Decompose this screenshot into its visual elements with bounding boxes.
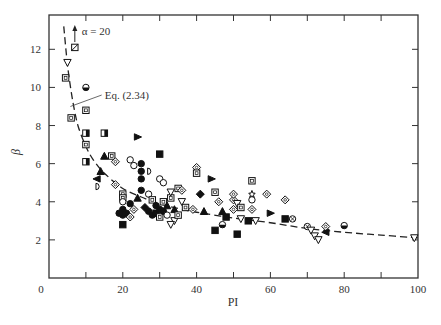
- data-point: [62, 75, 68, 81]
- circle-marker: [120, 199, 126, 205]
- data-point: [157, 214, 163, 220]
- y-tick-label: 2: [36, 234, 42, 246]
- filled-circle-marker: [138, 168, 144, 174]
- data-point: [212, 189, 218, 195]
- data-point: [193, 170, 199, 176]
- data-point: [230, 190, 238, 198]
- data-point: [263, 190, 271, 198]
- circle-marker: [160, 180, 166, 186]
- half-fill: [86, 130, 89, 136]
- data-point: [116, 210, 122, 216]
- data-point: [200, 208, 207, 215]
- data-point: [97, 168, 104, 175]
- half-fill: [104, 130, 107, 136]
- circle-marker: [164, 212, 170, 218]
- data-point: [138, 176, 144, 182]
- triangle-down-marker: [167, 221, 174, 228]
- data-point: [127, 200, 133, 206]
- axes-frame: [49, 15, 418, 278]
- data-point: [149, 197, 155, 203]
- data-point: [101, 152, 108, 159]
- data-point: [281, 196, 289, 204]
- data-point: [289, 216, 295, 222]
- data-point: [120, 199, 126, 205]
- data-point: [212, 227, 218, 233]
- data-point: [134, 134, 141, 140]
- data-point: [101, 130, 107, 136]
- filled-circle-marker: [138, 176, 144, 182]
- plot-frame: [49, 15, 418, 278]
- data-point: [68, 115, 74, 121]
- alpha-annotation: α = 20: [82, 25, 111, 37]
- data-point: [160, 180, 166, 186]
- data-point: [167, 221, 174, 228]
- half-fill: [86, 159, 89, 165]
- data-point: [245, 218, 251, 224]
- square-marker: [83, 107, 89, 113]
- data-point: [138, 160, 144, 166]
- square-marker: [157, 214, 163, 220]
- data-point: [83, 141, 89, 147]
- square-marker: [175, 212, 181, 218]
- filled-circle-marker: [127, 200, 133, 206]
- y-tick-label: 8: [36, 120, 42, 132]
- triangle-marker: [134, 194, 141, 201]
- data-point: [72, 44, 78, 50]
- data-point: [267, 210, 274, 216]
- filled-square-marker: [120, 221, 126, 227]
- data-point: [175, 212, 181, 218]
- data-point: [138, 168, 144, 174]
- triangle-right-marker: [267, 210, 274, 216]
- data-point: [93, 176, 100, 182]
- square-marker: [182, 204, 188, 210]
- square-marker: [212, 189, 218, 195]
- data-point: [248, 205, 256, 213]
- data-point: [134, 194, 141, 201]
- data-point: [315, 237, 322, 244]
- data-point: [127, 157, 133, 163]
- y-tick-label: 12: [30, 43, 41, 55]
- filled-square-marker: [234, 231, 240, 237]
- data-point: [215, 198, 223, 206]
- data-point: [238, 204, 244, 210]
- data-point: [148, 168, 151, 174]
- triangle-left-marker: [93, 176, 100, 182]
- data-point: [249, 178, 255, 184]
- y-tick-label: 6: [36, 158, 42, 170]
- data-point: [120, 221, 126, 227]
- filled-square-marker: [157, 151, 163, 157]
- diamond-marker: [248, 205, 256, 213]
- triangle-right-marker: [208, 176, 215, 182]
- filled-square-marker: [282, 216, 288, 222]
- y-tick-label: 4: [36, 196, 42, 208]
- arrow-up-icon: [72, 25, 77, 31]
- square-marker: [149, 197, 155, 203]
- data-point: [109, 153, 115, 159]
- data-point: [208, 176, 215, 182]
- filled-square-marker: [212, 227, 218, 233]
- filled-circle-marker: [138, 160, 144, 166]
- data-point: [196, 190, 204, 198]
- half-circle-outline-marker: [148, 168, 151, 174]
- x-tick-label: 20: [117, 283, 129, 295]
- filled-circle-marker: [138, 187, 144, 193]
- square-marker: [68, 115, 74, 121]
- triangle-down-marker: [315, 237, 322, 244]
- filled-square-marker: [223, 214, 229, 220]
- diamond-marker: [230, 190, 238, 198]
- data-point: [83, 107, 89, 113]
- square-marker: [193, 170, 199, 176]
- scatter-chart: 020406080100 24681012 PI β α = 20Eq. (2.…: [0, 0, 441, 325]
- data-point: [223, 214, 229, 220]
- diamond-marker: [215, 198, 223, 206]
- diamond-marker: [281, 196, 289, 204]
- triangle-down-marker: [64, 59, 71, 66]
- square-marker: [62, 75, 68, 81]
- circle-marker: [127, 157, 133, 163]
- data-point: [111, 181, 119, 189]
- x-axis-label: PI: [228, 295, 239, 309]
- diamond-marker: [263, 190, 271, 198]
- half-circle-outline-marker: [96, 183, 99, 189]
- x-tick-label: 100: [410, 283, 427, 295]
- x-tick-label: 60: [265, 283, 277, 295]
